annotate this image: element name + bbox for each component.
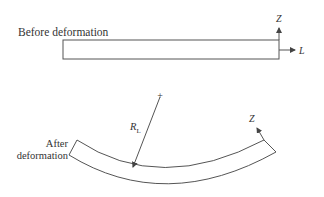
curved-beam-inner-edge <box>77 140 264 168</box>
radius-label: RL <box>129 121 141 135</box>
curved-beam-left-end <box>69 140 77 155</box>
z-axis-label-after: Z <box>249 113 255 124</box>
z-axis-label-before: Z <box>276 13 282 24</box>
before-deformation-group: Before deformation Z L <box>18 13 305 59</box>
z-axis-arrow-curved-icon <box>257 128 264 140</box>
curved-beam-right-end <box>264 140 276 152</box>
l-axis-label: L <box>298 45 305 56</box>
curved-beam-outer-edge <box>69 152 276 184</box>
radius-label-subscript: L <box>136 127 140 135</box>
beam-deformation-diagram: Before deformation Z L After deformation… <box>0 0 324 197</box>
after-deformation-group: After deformation + RL Z <box>17 90 276 184</box>
after-deformation-label-line2: deformation <box>17 150 69 161</box>
center-of-curvature-marker: + <box>157 90 163 101</box>
after-deformation-label-line1: After <box>46 138 69 149</box>
before-deformation-label: Before deformation <box>18 26 109 38</box>
straight-beam <box>63 40 279 59</box>
